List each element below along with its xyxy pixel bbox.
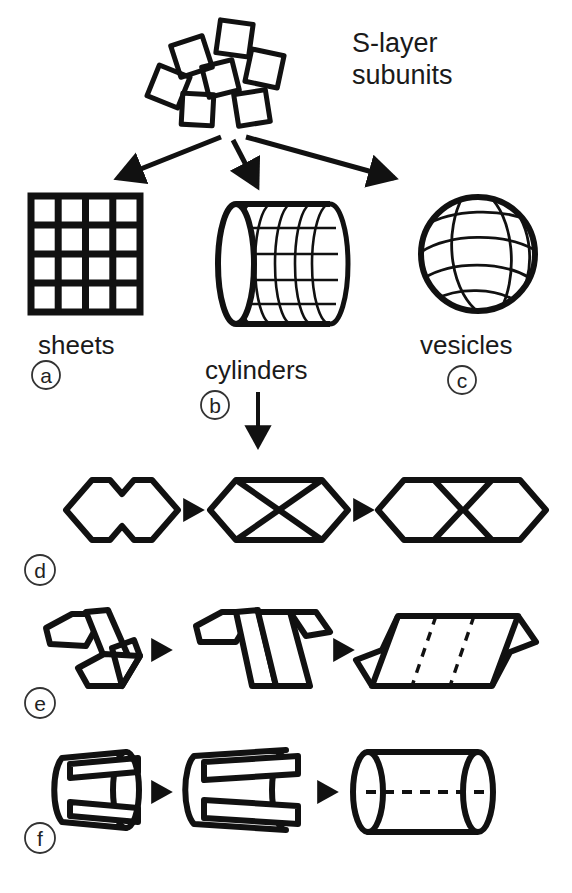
overlapping-roll bbox=[185, 750, 298, 830]
s-layer-assembly-figure: a b c d e f bbox=[0, 0, 572, 893]
arrow-to-cylinders bbox=[233, 140, 257, 186]
subunit-square bbox=[202, 60, 240, 98]
panel-letter-a: a bbox=[40, 364, 52, 387]
panel-letter-d: d bbox=[34, 559, 46, 582]
vesicle-sphere bbox=[418, 196, 535, 313]
subunit-square bbox=[234, 90, 271, 127]
row-d-hexagon-assembly bbox=[66, 480, 546, 540]
arrow-to-vesicles bbox=[246, 137, 394, 178]
cylinder-lattice bbox=[218, 204, 348, 324]
panel-letter-f: f bbox=[37, 827, 43, 850]
double-fold bbox=[196, 610, 330, 686]
panel-letter-c: c bbox=[457, 369, 468, 392]
label-s-layer-subunits: S-layer subunits bbox=[352, 28, 453, 92]
subunit-square bbox=[216, 20, 253, 57]
label-sheets: sheets bbox=[38, 330, 115, 361]
arrow-to-sheets bbox=[118, 137, 221, 178]
row-e-folded-sheets bbox=[46, 610, 536, 686]
subunit-square bbox=[245, 49, 284, 88]
label-vesicles: vesicles bbox=[420, 330, 512, 361]
crossed-hexagon bbox=[210, 480, 348, 540]
flat-sheet-with-creases bbox=[356, 616, 536, 686]
open-roll bbox=[54, 752, 139, 828]
elongated-hexagon-tube bbox=[378, 480, 546, 540]
notched-hexagon bbox=[66, 480, 178, 540]
s-layer-subunit-cluster bbox=[147, 20, 284, 126]
label-cylinders: cylinders bbox=[205, 355, 308, 386]
zigzag-fold bbox=[46, 610, 140, 686]
sheets-lattice bbox=[31, 196, 140, 312]
panel-letter-e: e bbox=[34, 692, 46, 715]
panel-letter-b: b bbox=[209, 394, 221, 417]
